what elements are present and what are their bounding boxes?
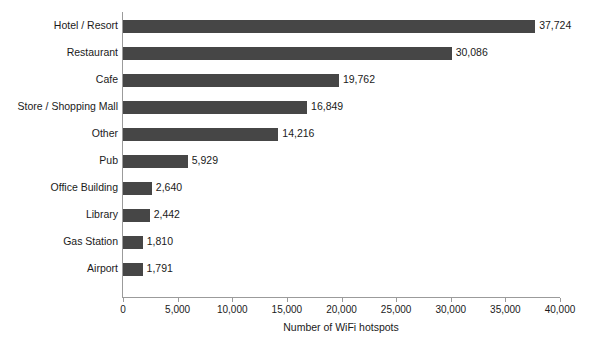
bar: [123, 47, 452, 60]
category-label: Pub: [99, 154, 118, 166]
bar-chart-figure: Hotel / Resort37,724Restaurant30,086Cafe…: [0, 0, 597, 347]
bar-value-label: 1,810: [147, 235, 173, 248]
bar-value-label: 1,791: [147, 262, 173, 275]
bar-value-label: 2,640: [156, 181, 182, 194]
bar-row: Airport1,791: [0, 257, 597, 284]
x-tick-mark: [178, 298, 179, 302]
bar-value-label: 19,762: [343, 73, 375, 86]
bar: [123, 209, 150, 222]
category-label: Gas Station: [63, 235, 118, 247]
x-tick-label: 25,000: [381, 304, 412, 316]
bar-value-label: 2,442: [154, 208, 180, 221]
bar-value-label: 5,929: [192, 154, 218, 167]
bar-value-label: 30,086: [456, 46, 488, 59]
category-label: Office Building: [50, 181, 118, 193]
category-label: Cafe: [96, 73, 118, 85]
bar-value-label: 37,724: [539, 19, 571, 32]
category-label: Restaurant: [67, 46, 118, 58]
plot-area: Hotel / Resort37,724Restaurant30,086Cafe…: [0, 12, 597, 297]
x-tick-mark: [287, 298, 288, 302]
chart-title: [0, 0, 597, 5]
bar-row: Office Building2,640: [0, 176, 597, 203]
bar-value-label: 14,216: [282, 127, 314, 140]
x-tick-mark: [396, 298, 397, 302]
x-tick-mark: [451, 298, 452, 302]
bar-value-label: 16,849: [311, 100, 343, 113]
x-tick-label: 5,000: [165, 304, 190, 316]
x-tick-label: 30,000: [435, 304, 466, 316]
bar: [123, 182, 152, 195]
bar: [123, 236, 143, 249]
bar-row: Restaurant30,086: [0, 41, 597, 68]
bar-row: Pub5,929: [0, 149, 597, 176]
category-label: Hotel / Resort: [54, 19, 118, 31]
bar: [123, 20, 535, 33]
x-tick-label: 0: [120, 304, 126, 316]
x-tick-mark: [232, 298, 233, 302]
x-tick-label: 40,000: [545, 304, 576, 316]
bar-row: Store / Shopping Mall16,849: [0, 95, 597, 122]
bar-row: Cafe19,762: [0, 68, 597, 95]
category-label: Other: [92, 127, 118, 139]
bar-row: Hotel / Resort37,724: [0, 14, 597, 41]
x-axis-title: Number of WiFi hotspots: [122, 321, 560, 333]
x-tick-mark: [123, 298, 124, 302]
bar-row: Other14,216: [0, 122, 597, 149]
x-tick-mark: [505, 298, 506, 302]
category-label: Library: [86, 208, 118, 220]
bar-row: Gas Station1,810: [0, 230, 597, 257]
bar: [123, 155, 188, 168]
x-axis: 05,00010,00015,00020,00025,00030,00035,0…: [0, 297, 597, 347]
x-tick-mark: [342, 298, 343, 302]
x-tick-label: 35,000: [490, 304, 521, 316]
bar: [123, 101, 307, 114]
x-tick-label: 10,000: [217, 304, 248, 316]
bar: [123, 128, 278, 141]
bar: [123, 263, 143, 276]
category-label: Airport: [87, 262, 118, 274]
x-tick-label: 20,000: [326, 304, 357, 316]
x-tick-mark: [560, 298, 561, 302]
bar-row: Library2,442: [0, 203, 597, 230]
category-label: Store / Shopping Mall: [18, 100, 118, 112]
bar: [123, 74, 339, 87]
x-tick-label: 15,000: [272, 304, 303, 316]
